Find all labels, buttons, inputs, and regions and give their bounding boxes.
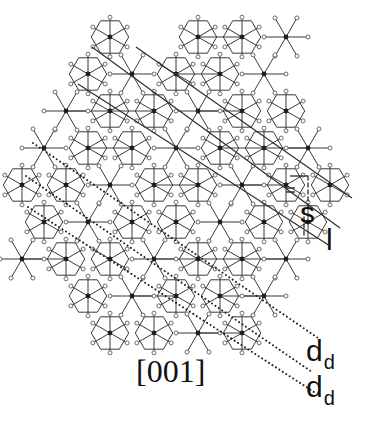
satellite-atom [273,53,277,57]
satellite-atom [295,165,299,169]
satellite-atom [207,201,211,205]
spoke-bond [132,222,149,232]
satellite-atom [59,210,63,214]
satellite-atom [47,173,51,177]
spoke-bond [93,37,110,47]
satellite-atom [135,193,139,197]
spoke-bond [242,37,259,47]
spoke-bond [66,185,83,195]
satellite-atom [223,25,227,29]
spoke-bond [247,212,264,222]
hub-atom [108,331,113,336]
satellite-atom [213,25,217,29]
spoke-bond [71,148,88,158]
satellite-atom [42,240,46,244]
spoke-bond [181,185,198,195]
satellite-atom [169,99,173,103]
spoke-bond [44,212,61,222]
satellite-atom [191,82,195,86]
satellite-atom [130,200,134,204]
satellite-atom [119,164,123,168]
satellite-atom [229,164,233,168]
satellite-atom [191,230,195,234]
satellite-atom [235,156,239,160]
satellite-atom [64,277,68,281]
satellite-atom [179,247,183,251]
satellite-atom [108,89,112,93]
satellite-atom [91,25,95,29]
satellite-atom [191,284,195,288]
spoke-bond [225,27,242,37]
spoke-bond [286,37,297,56]
satellite-atom [223,45,227,49]
satellite-atom [163,127,167,131]
hub-atom [218,146,223,151]
hub-atom [152,183,157,188]
satellite-atom [135,341,139,345]
spoke-bond [110,333,127,343]
satellite-atom [169,321,173,325]
satellite-atom [262,35,266,39]
spoke-bond [176,212,193,222]
spoke-bond [242,101,259,111]
satellite-atom [141,313,145,317]
spoke-bond [242,111,259,121]
satellite-atom [69,62,73,66]
satellite-atom [223,321,227,325]
satellite-atom [229,201,233,205]
satellite-atom [267,119,271,123]
satellite-atom [201,82,205,86]
satellite-atom [31,165,35,169]
spoke-bond [275,240,286,259]
satellite-atom [152,294,156,298]
bond-layer [0,17,349,353]
satellite-atom [108,277,112,281]
satellite-atom [284,72,288,76]
spoke-bond [220,64,237,74]
spoke-bond [121,296,132,315]
satellite-atom [267,99,271,103]
spoke-bond [242,166,253,185]
satellite-atom [295,238,299,242]
spoke-bond [165,129,176,148]
spoke-bond [225,323,242,333]
satellite-atom [301,119,305,123]
spoke-bond [93,27,110,37]
satellite-atom [53,165,57,169]
satellite-atom [240,351,244,355]
satellite-atom [157,304,161,308]
spoke-bond [66,92,77,111]
satellite-atom [328,203,332,207]
spoke-bond [165,148,176,167]
hub-atom [196,183,201,188]
spoke-bond [159,74,176,84]
spoke-bond [242,27,259,37]
satellite-atom [295,16,299,20]
spoke-bond [115,138,132,148]
satellite-atom [317,165,321,169]
spoke-bond [27,222,44,232]
hub-atom [196,331,201,336]
spoke-bond [225,249,242,259]
satellite-atom [273,275,277,279]
satellite-atom [191,210,195,214]
hub-atom [174,294,179,299]
spoke-bond [88,64,105,74]
satellite-atom [53,90,57,94]
satellite-atom [196,15,200,19]
satellite-atom [103,136,107,140]
satellite-atom [174,331,178,335]
spoke-bond [110,27,127,37]
satellite-atom [130,240,134,244]
satellite-atom [147,156,151,160]
hub-atom [86,294,91,299]
spoke-bond [253,277,264,296]
satellite-atom [257,341,261,345]
satellite-atom [174,257,178,261]
spoke-bond [203,64,220,74]
satellite-atom [97,239,101,243]
satellite-atom [196,220,200,224]
satellite-atom [152,311,156,315]
spoke-bond [198,259,215,269]
spoke-bond [93,259,110,269]
